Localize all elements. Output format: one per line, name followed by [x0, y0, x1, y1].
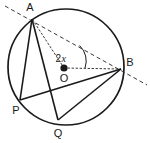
- centre-label-o: O: [60, 72, 69, 84]
- chord-a-p: [20, 19, 32, 100]
- point-label-b: B: [126, 56, 133, 68]
- geometry-canvas: A B P Q O 2 x: [0, 0, 150, 143]
- point-label-a: A: [26, 1, 34, 13]
- chord-p-b: [20, 69, 121, 100]
- circle-geometry-diagram: A B P Q O 2 x: [0, 0, 150, 143]
- chord-a-q: [32, 19, 58, 120]
- dashed-line-a-b-extended: [5, 6, 147, 85]
- centre-point-dot: [60, 64, 67, 71]
- central-angle-arc: [80, 46, 87, 69]
- point-label-p: P: [12, 104, 19, 116]
- angle-label-variable: x: [61, 53, 67, 64]
- dotted-radius-o-b: [64, 68, 121, 69]
- point-label-q: Q: [54, 127, 63, 139]
